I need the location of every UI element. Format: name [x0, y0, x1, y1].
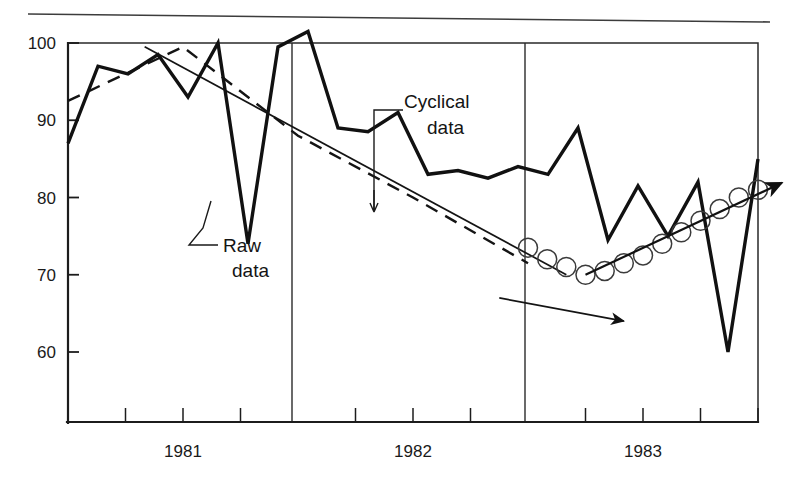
y-tick-label-100: 100 — [28, 34, 56, 53]
annotation-cyclical-data: Cyclical data — [370, 91, 469, 212]
series-trend-line — [145, 47, 567, 275]
y-tick-label-90: 90 — [37, 111, 56, 130]
y-tick-label-80: 80 — [37, 189, 56, 208]
forecast-marker — [653, 234, 672, 253]
y-axis: 10090807060 — [28, 34, 79, 423]
raw-data-leader-line — [189, 201, 218, 245]
cyclical-data-arrow-head — [370, 190, 378, 212]
annotation-raw-data: Raw data — [189, 201, 269, 281]
cyclical-data-label-line1: Cyclical — [404, 91, 469, 112]
cyclical-data-label-line2: data — [427, 117, 464, 138]
x-tick-label-1981: 1981 — [164, 442, 202, 461]
y-tick-label-70: 70 — [37, 266, 56, 285]
x-tick-group — [126, 408, 759, 422]
x-tick-label-group: 198119821983 — [164, 442, 662, 461]
x-axis: 198119821983 — [67, 408, 758, 461]
series-group — [68, 31, 782, 352]
x-tick-label-1982: 1982 — [394, 442, 432, 461]
x-tick-label-1983: 1983 — [624, 442, 662, 461]
top-rule-divider — [28, 14, 770, 22]
series-cyclical-data — [68, 47, 528, 263]
forecast-marker — [595, 261, 614, 280]
y-tick-label-60: 60 — [37, 343, 56, 362]
raw-data-label-line1: Raw — [223, 235, 261, 256]
forecast-marker — [557, 258, 576, 277]
forecast-chart: 10090807060 198119821983 Raw data — [0, 0, 796, 496]
raw-data-label-line2: data — [232, 260, 269, 281]
figure-container: 10090807060 198119821983 Raw data — [0, 0, 796, 496]
direction-arrow — [499, 298, 624, 321]
y-tick-group: 10090807060 — [28, 34, 79, 362]
forecast-marker — [538, 250, 557, 269]
